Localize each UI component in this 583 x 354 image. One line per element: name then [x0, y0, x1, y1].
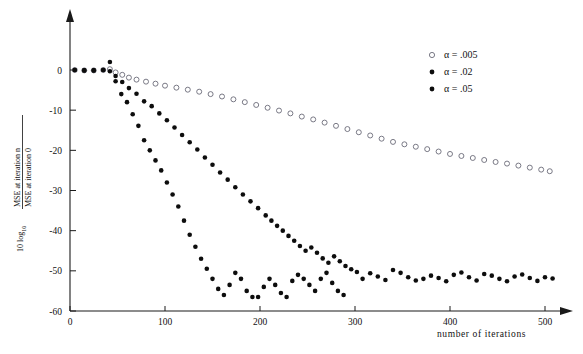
data-point	[425, 147, 430, 152]
data-point	[144, 79, 149, 84]
data-point	[263, 213, 268, 218]
data-point	[444, 279, 449, 284]
legend-label-1: α = .005	[444, 49, 477, 60]
x-tick-label: 200	[253, 317, 268, 327]
y-tick-label: -20	[49, 146, 62, 156]
data-point	[292, 238, 297, 243]
data-point	[239, 277, 244, 282]
data-point	[309, 245, 314, 250]
data-point	[108, 69, 113, 74]
data-point	[218, 170, 223, 175]
data-point	[543, 275, 548, 280]
data-point	[516, 163, 521, 168]
chart-background	[0, 0, 583, 354]
data-point	[368, 271, 373, 276]
data-point	[520, 272, 525, 277]
data-point	[187, 140, 192, 145]
data-point	[391, 268, 396, 273]
data-point	[157, 111, 162, 116]
data-point	[436, 276, 441, 281]
data-point	[216, 287, 221, 292]
data-point	[142, 99, 147, 104]
data-point	[113, 74, 118, 79]
data-point	[452, 273, 457, 278]
data-point	[528, 276, 533, 281]
data-point	[281, 228, 286, 233]
data-point	[470, 155, 475, 160]
data-point	[368, 133, 373, 138]
data-point	[233, 185, 238, 190]
data-point	[338, 259, 343, 264]
data-point	[82, 68, 87, 73]
data-point	[199, 256, 204, 261]
data-point	[130, 112, 135, 117]
data-point	[497, 277, 502, 282]
data-point	[326, 261, 331, 266]
data-point	[148, 148, 153, 153]
data-point	[320, 256, 325, 261]
data-point	[467, 275, 472, 280]
data-point	[413, 144, 418, 149]
data-point	[448, 151, 453, 156]
data-point	[474, 278, 479, 283]
data-point	[126, 75, 131, 80]
data-point	[505, 279, 510, 284]
data-point	[267, 277, 272, 282]
data-point	[547, 169, 552, 174]
data-point	[256, 206, 261, 211]
data-point	[505, 161, 510, 166]
data-point	[459, 270, 464, 275]
data-point	[134, 91, 139, 96]
x-tick-label: 500	[538, 317, 553, 327]
data-point	[379, 136, 384, 141]
data-point	[244, 289, 249, 294]
data-point	[134, 77, 139, 82]
data-point	[402, 142, 407, 147]
y-tick-label: -10	[49, 106, 62, 116]
x-tick-label: 300	[348, 317, 363, 327]
data-point	[355, 270, 360, 275]
y-tick-label: 0	[57, 66, 62, 76]
data-point	[414, 278, 419, 283]
data-point	[119, 92, 124, 97]
data-point	[286, 234, 291, 239]
data-point	[493, 159, 498, 164]
data-point	[248, 199, 253, 204]
data-point	[256, 295, 261, 300]
data-point	[298, 244, 303, 249]
data-point	[269, 218, 274, 223]
y-axis-label-denominator: MSE at iteration 0	[24, 148, 33, 207]
y-axis-label-numerator: MSE at iteration n	[13, 148, 22, 207]
data-point	[535, 279, 540, 284]
data-point	[254, 102, 259, 107]
data-point	[127, 86, 132, 91]
data-point	[482, 157, 487, 162]
data-point	[174, 85, 179, 90]
data-point	[195, 147, 200, 152]
data-point	[322, 120, 327, 125]
data-point	[149, 104, 154, 109]
data-point	[91, 68, 96, 73]
legend-label-3: α = .05	[444, 83, 472, 94]
legend-marker-3	[430, 87, 435, 92]
data-point	[482, 272, 487, 277]
data-point	[398, 271, 403, 276]
data-point	[203, 155, 208, 160]
data-point	[383, 278, 388, 283]
data-point	[208, 92, 213, 97]
y-tick-label: -40	[49, 226, 62, 236]
data-point	[273, 283, 278, 288]
data-point	[170, 192, 175, 197]
data-point	[262, 285, 267, 290]
data-point	[108, 60, 113, 65]
data-point	[360, 277, 365, 282]
data-point	[165, 180, 170, 185]
data-point	[334, 123, 339, 128]
data-point	[436, 149, 441, 154]
data-point	[176, 204, 181, 209]
data-point	[429, 273, 434, 278]
data-point	[275, 224, 280, 229]
data-point	[182, 218, 187, 223]
data-point	[265, 105, 270, 110]
data-point	[222, 293, 227, 298]
